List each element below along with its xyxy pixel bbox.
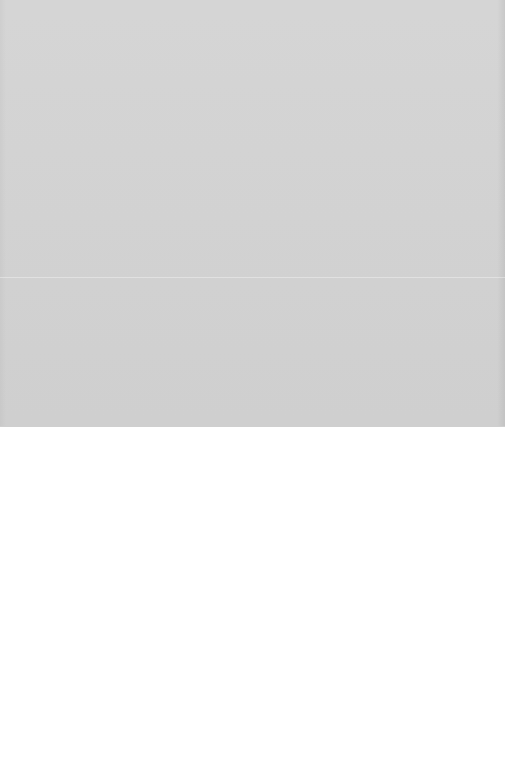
placeholder-seam [0, 277, 505, 278]
page [0, 0, 505, 784]
blank-content-area [0, 427, 505, 784]
media-placeholder[interactable] [0, 0, 505, 427]
